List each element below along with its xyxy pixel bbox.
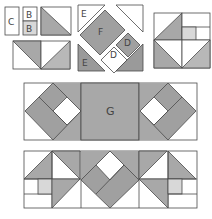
corner-tr-small [182, 27, 196, 40]
quilt-assembly-diagram: C B B E F D D E [0, 0, 212, 219]
step-1-pieces: C B B [5, 7, 71, 35]
label-f: F [98, 27, 103, 37]
label-b-top: B [26, 10, 32, 20]
label-e-top: E [81, 9, 87, 19]
label-d-right: D [124, 38, 131, 48]
step-5-bottom-row [24, 151, 197, 208]
label-c: C [8, 17, 14, 27]
label-b-bottom: B [26, 24, 32, 34]
step-4-middle-row: G [24, 83, 197, 140]
step-1-hst-row [13, 41, 70, 69]
step-3-corner-block [154, 13, 210, 68]
label-g: G [106, 105, 115, 118]
label-e-bottom: E [82, 58, 88, 68]
label-d-lower: D [110, 50, 117, 60]
bottom-left-small-sq [38, 179, 52, 194]
bottom-right-small-sq [168, 179, 182, 194]
step-2-diamond: E F D D E [78, 5, 143, 73]
